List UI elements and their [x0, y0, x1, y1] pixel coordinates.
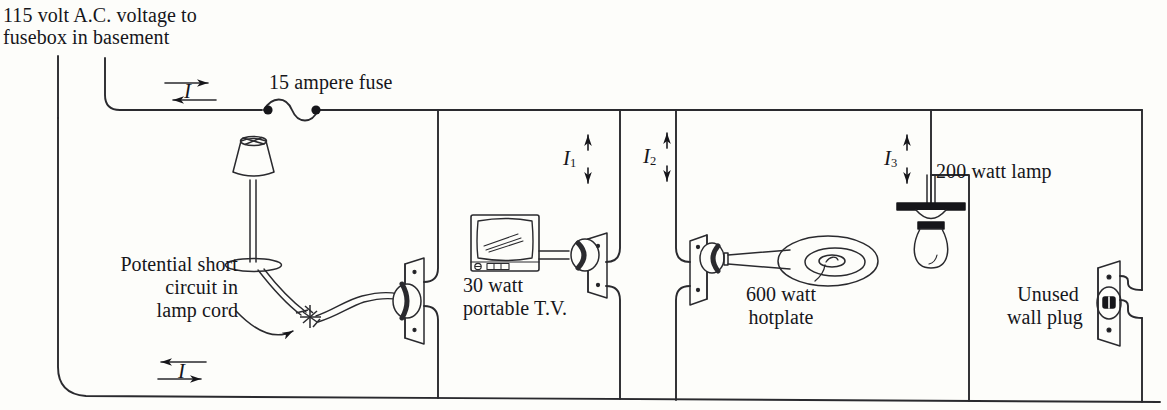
portable-tv-icon: [471, 215, 539, 271]
outlet-plate-lamp: [393, 258, 424, 344]
branch-wire-tv: [606, 110, 620, 399]
short-circuit-label-line3: lamp cord: [78, 299, 238, 323]
current-subscript: 3: [891, 156, 897, 170]
current-label-i3: I3: [884, 146, 897, 171]
current-symbol: I: [884, 146, 891, 170]
tv-plug-cord: [539, 251, 569, 259]
current-subscript: 1: [570, 156, 576, 170]
short-circuit-pointer-arrow: [236, 311, 293, 335]
circuit-svg: [0, 0, 1167, 410]
current-label-i2: I2: [643, 144, 656, 169]
current-symbol: I: [643, 144, 650, 168]
short-circuit-label-line2: circuit in: [78, 276, 238, 300]
wall-plug-icon: [1097, 261, 1121, 346]
fuse-terminal-left: [263, 105, 272, 114]
fuse-terminal-right: [311, 105, 320, 114]
wall-plug-label-line2: wall plug: [994, 306, 1096, 330]
current-symbol: I: [563, 146, 570, 170]
tv-label-line2: portable T.V.: [463, 297, 567, 321]
current-label-i1: I1: [563, 146, 576, 171]
current-symbol: I: [184, 79, 191, 103]
short-circuit-spark-icon: [296, 305, 321, 328]
circuit-diagram-figure: 115 volt A.C. voltage to fusebox in base…: [0, 0, 1167, 410]
wall-plug-label-line1: Unused: [1000, 283, 1096, 307]
branch-wire-hotplate: [676, 110, 690, 400]
current-label-bottom: I: [178, 359, 185, 384]
hotplate-label-line2: hotplate: [716, 306, 846, 330]
outlet-plate-tv: [571, 233, 607, 298]
hotplate-icon: [724, 236, 878, 286]
current-label-top: I: [184, 79, 191, 104]
lamp-cord-to-outlet: [316, 293, 399, 322]
short-circuit-label-line1: Potential short: [78, 253, 238, 277]
fuse-label: 15 ampere fuse: [269, 71, 393, 95]
supply-label-line1: 115 volt A.C. voltage to: [3, 4, 197, 28]
tv-label-line1: 30 watt: [463, 274, 523, 298]
branch-wire-lamp: [424, 110, 438, 398]
hotplate-label-line1: 600 watt: [716, 283, 846, 307]
ceiling-lamp-label: 200 watt lamp: [936, 160, 1052, 184]
table-lamp-icon: [226, 136, 282, 271]
fuse-symbol: [264, 100, 1142, 121]
supply-label-line2: fusebox in basement: [3, 26, 169, 50]
wall-plug-wires: [1120, 276, 1142, 318]
supply-feed-wire: [58, 56, 262, 118]
current-subscript: 2: [650, 154, 656, 168]
lamp-cord: [258, 269, 306, 315]
current-symbol: I: [178, 359, 185, 383]
